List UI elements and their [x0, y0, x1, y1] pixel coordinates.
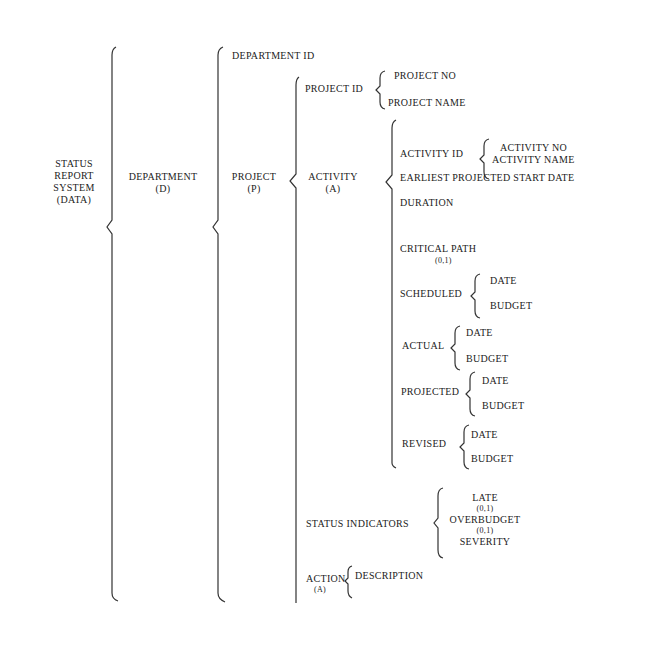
project-abbr: (P) — [226, 183, 282, 195]
revised-label: REVISED — [402, 438, 446, 450]
root-label: STATUS REPORT SYSTEM (DATA) — [46, 158, 102, 206]
activity-id-label: ACTIVITY ID — [400, 148, 463, 160]
project-id-brace — [375, 70, 387, 110]
critical-path-values: (0,1) — [435, 255, 452, 267]
actual-date: DATE — [466, 327, 493, 339]
department-node: DEPARTMENT (D) — [116, 171, 210, 195]
severity: SEVERITY — [445, 536, 525, 547]
activity-label: ACTIVITY — [300, 171, 366, 183]
action-description: DESCRIPTION — [355, 570, 423, 582]
overbudget-values: (0,1) — [445, 525, 525, 536]
department-label: DEPARTMENT — [116, 171, 210, 183]
actual-brace — [450, 325, 462, 371]
department-bracket — [104, 45, 118, 605]
scheduled-brace — [470, 273, 482, 319]
activity-name: ACTIVITY NAME — [492, 154, 575, 166]
root-line: SYSTEM — [46, 182, 102, 194]
status-indicators-list: LATE (0,1) OVERBUDGET (0,1) SEVERITY — [445, 492, 525, 547]
projected-budget: BUDGET — [482, 400, 524, 412]
projected-label: PROJECTED — [401, 386, 459, 398]
activity-no: ACTIVITY NO — [500, 142, 567, 154]
scheduled-budget: BUDGET — [490, 300, 532, 312]
scheduled-label: SCHEDULED — [400, 288, 462, 300]
root-line: (DATA) — [46, 194, 102, 206]
activity-node: ACTIVITY (A) — [300, 171, 366, 195]
root-line: STATUS — [46, 158, 102, 170]
earliest-start-date: EARLIEST PROJECTED START DATE — [400, 172, 574, 184]
department-id: DEPARTMENT ID — [232, 50, 314, 62]
projected-brace — [465, 371, 477, 417]
status-indicators-label: STATUS INDICATORS — [306, 518, 409, 530]
overbudget: OVERBUDGET — [445, 514, 525, 525]
late: LATE — [445, 492, 525, 503]
project-no: PROJECT NO — [394, 70, 456, 82]
status-indicators-brace — [433, 487, 445, 559]
activity-bracket — [287, 75, 301, 605]
projected-date: DATE — [482, 375, 509, 387]
root-line: REPORT — [46, 170, 102, 182]
project-name: PROJECT NAME — [388, 97, 466, 109]
actual-budget: BUDGET — [466, 353, 508, 365]
project-node: PROJECT (P) — [226, 171, 282, 195]
action-abbr: (A) — [314, 584, 326, 596]
project-id-label: PROJECT ID — [305, 83, 363, 95]
revised-date: DATE — [471, 429, 498, 441]
duration: DURATION — [400, 197, 454, 209]
department-abbr: (D) — [116, 183, 210, 195]
scheduled-date: DATE — [490, 275, 517, 287]
revised-budget: BUDGET — [471, 453, 513, 465]
action-brace — [344, 565, 354, 599]
revised-brace — [459, 424, 471, 470]
actual-label: ACTUAL — [402, 340, 444, 352]
activity-attrs-bracket — [384, 118, 398, 468]
late-values: (0,1) — [445, 503, 525, 514]
critical-path: CRITICAL PATH — [400, 243, 476, 255]
project-bracket — [211, 45, 225, 605]
project-label: PROJECT — [226, 171, 282, 183]
activity-abbr: (A) — [300, 183, 366, 195]
